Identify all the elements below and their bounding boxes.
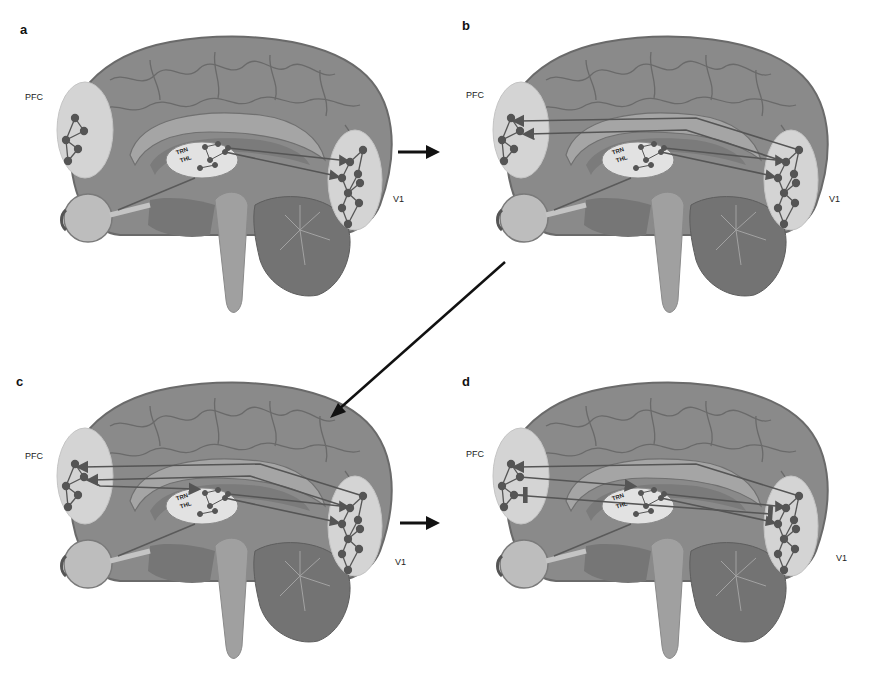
- panel-flow-arrows: [0, 0, 875, 692]
- arrow-a-to-b-icon: [398, 145, 440, 159]
- arrow-c-to-d-icon: [400, 516, 440, 530]
- arrow-b-to-c-icon: [330, 262, 505, 418]
